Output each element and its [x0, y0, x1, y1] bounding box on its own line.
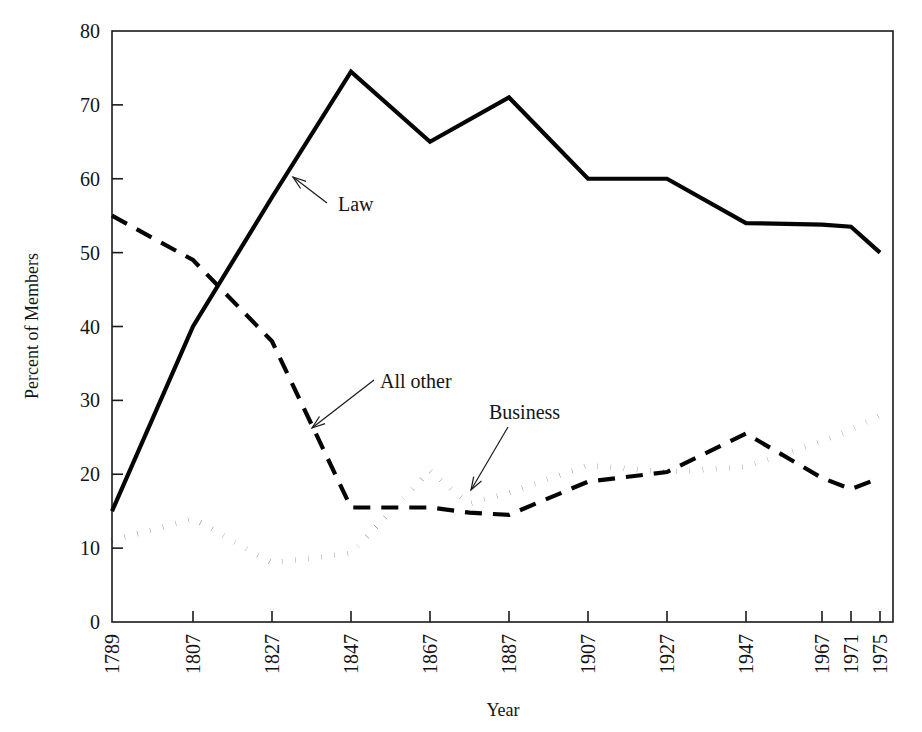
y-axis-title: Percent of Members: [22, 253, 42, 399]
y-tick-label: 50: [80, 242, 100, 264]
x-tick-label: 1971: [840, 634, 862, 674]
y-tick-label: 40: [80, 316, 100, 338]
x-tick-label: 1947: [735, 634, 757, 674]
x-tick-label: 1975: [869, 634, 891, 674]
x-axis-title: Year: [486, 700, 519, 720]
line-chart-figure: 01020304050607080 1789180718271847186718…: [0, 0, 922, 732]
x-tick-label: 1907: [577, 634, 599, 674]
y-tick-label: 10: [80, 537, 100, 559]
x-tick-label: 1887: [498, 634, 520, 674]
x-tick-label: 1807: [182, 634, 204, 674]
x-tick-label: 1867: [419, 634, 441, 674]
y-tick-label: 30: [80, 389, 100, 411]
y-tick-label: 70: [80, 94, 100, 116]
y-tick-label: 60: [80, 168, 100, 190]
series-annotation-label: Business: [489, 401, 560, 423]
series-annotation-label: All other: [380, 370, 452, 392]
y-tick-label: 0: [90, 611, 100, 633]
y-tick-label: 20: [80, 463, 100, 485]
series-annotation-label: Law: [338, 193, 374, 215]
x-tick-label: 1927: [656, 634, 678, 674]
x-tick-label: 1967: [811, 634, 833, 674]
x-tick-label: 1789: [101, 634, 123, 674]
y-axis-tick-labels: 01020304050607080: [80, 20, 100, 633]
x-tick-label: 1847: [340, 634, 362, 674]
x-tick-label: 1827: [261, 634, 283, 674]
y-tick-label: 80: [80, 20, 100, 42]
